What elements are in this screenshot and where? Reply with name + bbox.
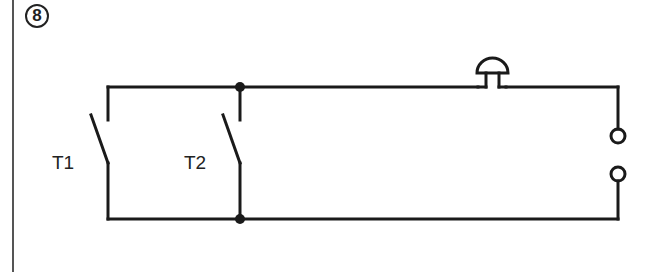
switch-label-t2: T2	[184, 152, 206, 174]
junction-bottom-dot	[235, 214, 245, 224]
bell-icon	[477, 58, 508, 87]
junction-top-dot	[235, 82, 245, 92]
terminal-bottom-icon	[611, 167, 625, 181]
circuit-diagram	[0, 0, 659, 272]
terminal-top-icon	[611, 129, 625, 143]
t1-switch-blade	[91, 115, 108, 163]
switch-label-t1: T1	[52, 152, 74, 174]
t2-switch-blade	[223, 115, 240, 163]
